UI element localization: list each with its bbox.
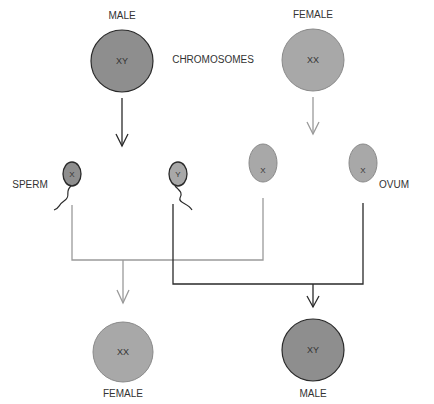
male-fertilization-path	[173, 203, 363, 307]
male-offspring-label: MALE	[299, 388, 327, 399]
sperm-x: X	[54, 162, 81, 210]
female-fertilization-path	[72, 198, 263, 303]
male-meiosis-arrow	[116, 98, 128, 146]
ovum-1: X	[249, 144, 277, 182]
ovum-2: X	[349, 144, 377, 182]
male-parent-label: MALE	[108, 10, 136, 21]
ovum-2-chromosome: X	[360, 166, 366, 175]
male-parent-chromosomes: XY	[116, 56, 128, 66]
sperm-y: Y	[169, 162, 192, 210]
female-offspring-label: FEMALE	[103, 388, 143, 399]
female-parent-chromosomes: XX	[307, 55, 319, 65]
female-meiosis-arrow	[307, 97, 319, 134]
ovum-label: OVUM	[379, 179, 409, 190]
ovum-1-chromosome: X	[260, 166, 266, 175]
sperm-label: SPERM	[12, 179, 48, 190]
sex-determination-diagram: MALE XY CHROMOSOMES FEMALE XX SPERM X Y …	[0, 0, 434, 404]
male-offspring-chromosomes: XY	[307, 345, 319, 355]
female-parent-label: FEMALE	[293, 9, 333, 20]
sperm-y-chromosome: Y	[175, 170, 181, 179]
sperm-x-chromosome: X	[69, 170, 75, 179]
female-offspring-chromosomes: XX	[117, 347, 129, 357]
chromosomes-label: CHROMOSOMES	[172, 54, 254, 65]
